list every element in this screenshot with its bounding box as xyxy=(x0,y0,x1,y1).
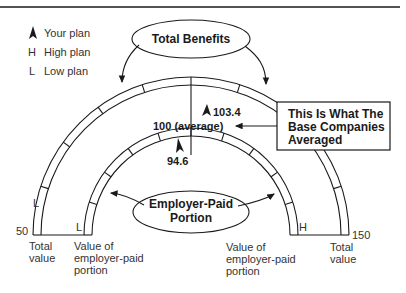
legend-low-plan-label: Low plan xyxy=(44,65,88,77)
legend: Your plan H High plan L Low plan xyxy=(28,26,90,77)
high-plan-marker: H xyxy=(28,46,36,58)
scale-max-label: 150 xyxy=(352,229,370,241)
left-total-caption-2: value xyxy=(29,252,55,264)
outer-low-marker: L xyxy=(33,197,39,209)
left-employer-caption-3: portion xyxy=(74,264,108,276)
total-benefits-callout: Total Benefits xyxy=(122,20,266,84)
outer-your-plan-value: 103.4 xyxy=(213,106,241,118)
outer-your-plan-marker-icon xyxy=(202,104,211,116)
scale-min-label: 50 xyxy=(16,225,28,237)
legend-high-plan-label: High plan xyxy=(44,46,90,58)
employer-paid-label-2: Portion xyxy=(170,211,212,225)
right-employer-caption-1: Value of xyxy=(226,241,266,253)
total-benefits-label: Total Benefits xyxy=(152,32,231,46)
average-label: 100 (average) xyxy=(153,120,224,132)
left-employer-caption-2: employer-paid xyxy=(74,252,144,264)
base-companies-label-1: This Is What The xyxy=(288,107,384,121)
right-total-caption-2: value xyxy=(330,253,356,265)
base-companies-label-2: Base Companies xyxy=(288,120,385,134)
inner-low-marker: L xyxy=(76,221,82,233)
benefits-gauge-diagram: Your plan H High plan L Low plan xyxy=(0,0,406,293)
employer-paid-callout: Employer-Paid Portion xyxy=(111,191,274,233)
right-total-caption-1: Total xyxy=(330,241,353,253)
legend-your-plan-label: Your plan xyxy=(44,27,90,39)
left-employer-caption-1: Value of xyxy=(74,240,114,252)
left-total-caption-1: Total xyxy=(29,240,52,252)
base-companies-callout: This Is What The Base Companies Averaged xyxy=(277,102,390,150)
employer-paid-label-1: Employer-Paid xyxy=(149,197,233,211)
base-companies-label-3: Averaged xyxy=(288,133,342,147)
low-plan-marker: L xyxy=(29,65,35,77)
inner-your-plan-marker-icon xyxy=(176,138,184,153)
right-employer-caption-2: employer-paid xyxy=(226,253,296,265)
inner-your-plan-value: 94.6 xyxy=(167,155,188,167)
right-employer-caption-3: portion xyxy=(226,265,260,277)
inner-high-marker: H xyxy=(299,221,307,233)
your-plan-marker-icon xyxy=(29,26,37,39)
